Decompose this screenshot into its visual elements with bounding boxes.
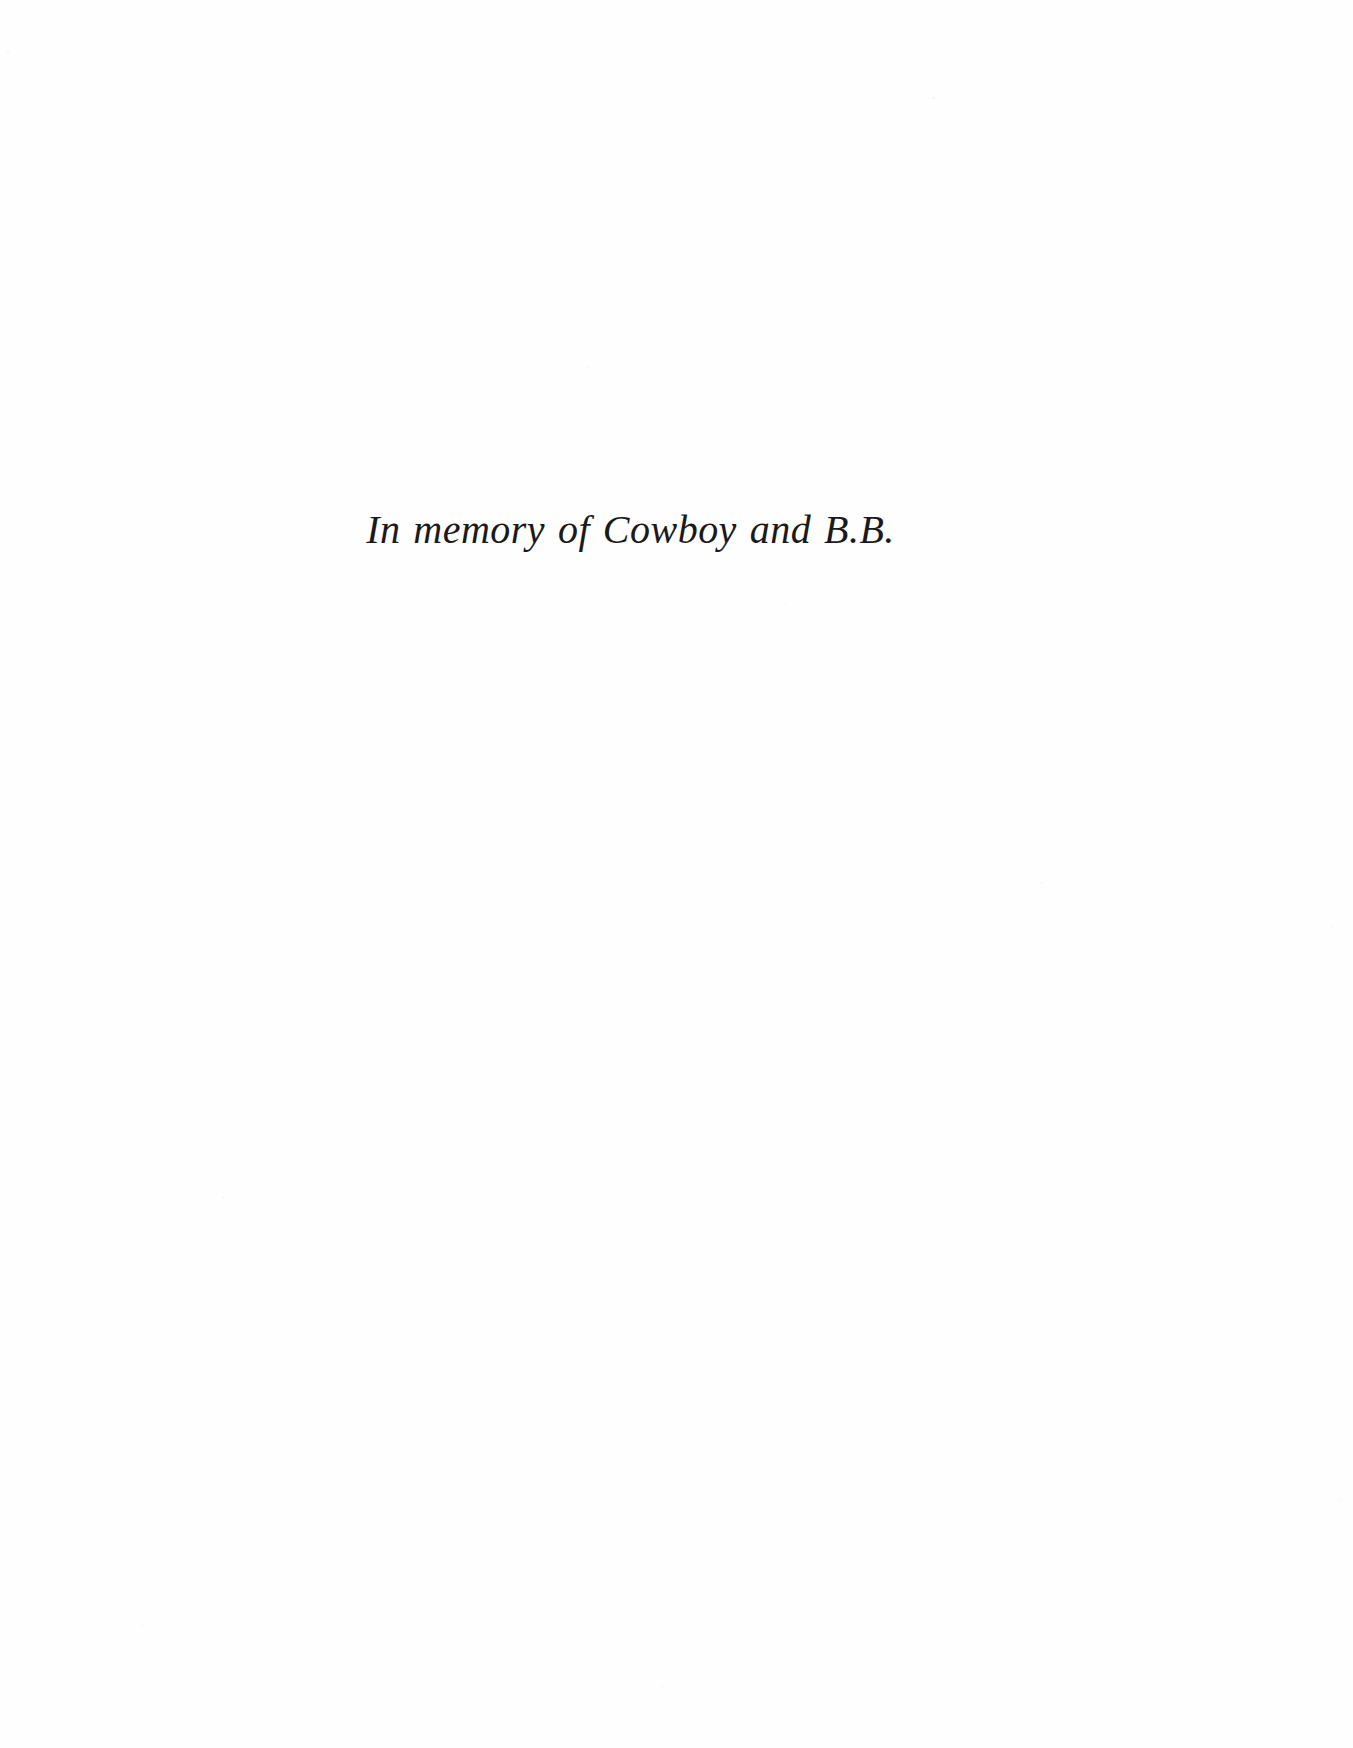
paper-texture xyxy=(0,0,1353,1748)
dedication-text: In memory of Cowboy and B.B. xyxy=(366,504,895,555)
scanned-page: In memory of Cowboy and B.B. xyxy=(0,0,1353,1748)
dedication-block: In memory of Cowboy and B.B. xyxy=(0,504,1353,555)
